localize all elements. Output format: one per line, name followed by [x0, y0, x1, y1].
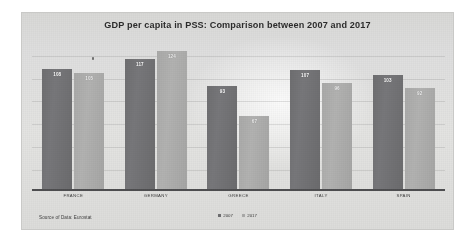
category-axis: FRANCE GERMANY GREECE ITALY SPAIN: [32, 193, 445, 203]
bar-italy-2007[interactable]: 107: [290, 70, 320, 191]
legend-item-2017[interactable]: 2017: [242, 213, 257, 218]
bar-value-label: 96: [322, 86, 352, 91]
source-note: Source of Data: Eurostat: [39, 215, 92, 220]
bar-value-label: 103: [373, 78, 403, 83]
bar-greece-2017[interactable]: 67: [239, 116, 269, 191]
bar-value-label: 92: [405, 91, 435, 96]
chart-card: GDP per capita in PSS: Comparison betwee…: [21, 12, 454, 230]
bar-value-label: 107: [290, 73, 320, 78]
bar-italy-2017[interactable]: 96: [322, 83, 352, 191]
bar-value-label: 108: [42, 72, 72, 77]
bar-value-label: 124: [157, 54, 187, 59]
category-label-italy: ITALY: [280, 193, 363, 203]
legend-swatch-icon: [242, 214, 245, 217]
bar-group-germany: 117 124: [115, 39, 198, 191]
legend-swatch-icon: [218, 214, 221, 217]
bar-value-label: 67: [239, 119, 269, 124]
legend-label: 2017: [247, 213, 257, 218]
bar-germany-2007[interactable]: 117: [125, 59, 155, 191]
x-axis-line: [32, 189, 445, 191]
bar-group-italy: 107 96: [280, 39, 363, 191]
category-label-france: FRANCE: [32, 193, 115, 203]
bar-spain-2017[interactable]: 92: [405, 88, 435, 192]
bar-group-spain: 103 92: [362, 39, 445, 191]
bar-group-greece: 93 67: [197, 39, 280, 191]
legend-label: 2007: [223, 213, 233, 218]
bar-groups: 108 105 117 124 93: [32, 39, 445, 191]
bar-group-france: 108 105: [32, 39, 115, 191]
legend-item-2007[interactable]: 2007: [218, 213, 233, 218]
bar-value-label: 105: [74, 76, 104, 81]
plot-area: 108 105 117 124 93: [32, 39, 445, 191]
bar-france-2017[interactable]: 105: [74, 73, 104, 191]
bar-value-label: 93: [207, 89, 237, 94]
category-label-greece: GREECE: [197, 193, 280, 203]
category-label-spain: SPAIN: [362, 193, 445, 203]
bar-spain-2007[interactable]: 103: [373, 75, 403, 191]
chart-page: GDP per capita in PSS: Comparison betwee…: [0, 0, 475, 247]
bar-greece-2007[interactable]: 93: [207, 86, 237, 191]
bar-value-label: 117: [125, 62, 155, 67]
chart-title: GDP per capita in PSS: Comparison betwee…: [22, 20, 453, 30]
bar-france-2007[interactable]: 108: [42, 69, 72, 191]
bar-germany-2017[interactable]: 124: [157, 51, 187, 191]
category-label-germany: GERMANY: [115, 193, 198, 203]
